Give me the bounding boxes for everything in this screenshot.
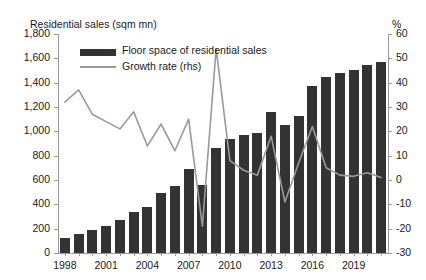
x-tick-label: 2001 [86, 259, 126, 271]
legend-bar-swatch [80, 49, 116, 56]
x-tick-label: 2013 [251, 259, 291, 271]
y-tick-label: 1,600 [6, 51, 50, 63]
y2-tick-mark [388, 253, 392, 254]
x-axis-spine [58, 253, 388, 254]
x-tick-label: 2010 [210, 259, 250, 271]
y-tick-label: 400 [6, 197, 50, 209]
y2-tick-label: 60 [396, 27, 426, 39]
y-tick-label: 600 [6, 173, 50, 185]
y-tick-label: 1,800 [6, 27, 50, 39]
y2-tick-label: 40 [396, 76, 426, 88]
y2-tick-label: -10 [396, 197, 426, 209]
y2-tick-label: 50 [396, 51, 426, 63]
y-tick-label: 1,000 [6, 124, 50, 136]
legend-label-bar: Floor space of residential sales [122, 44, 267, 56]
y2-tick-label: 10 [396, 149, 426, 161]
x-tick-label: 2019 [334, 259, 374, 271]
chart-container: Residential sales (sqm mn) % 02004006008… [0, 0, 426, 280]
y2-tick-label: 30 [396, 100, 426, 112]
y-tick-label: 800 [6, 149, 50, 161]
growth-rate-polyline [65, 49, 381, 227]
y-tick-label: 1,200 [6, 100, 50, 112]
y2-tick-label: -20 [396, 222, 426, 234]
legend-line-swatch [80, 66, 116, 68]
y2-tick-label: 0 [396, 173, 426, 185]
y2-tick-label: 20 [396, 124, 426, 136]
x-tick-label: 2016 [292, 259, 332, 271]
x-tick-label: 1998 [45, 259, 85, 271]
x-tick-label: 2004 [127, 259, 167, 271]
legend-label-line: Growth rate (rhs) [122, 60, 201, 72]
y2-tick-label: -30 [396, 246, 426, 258]
y-tick-label: 1,400 [6, 76, 50, 88]
y-axis-right-spine [388, 34, 389, 253]
x-tick-label: 2007 [169, 259, 209, 271]
y-tick-label: 0 [6, 246, 50, 258]
y-tick-label: 200 [6, 222, 50, 234]
